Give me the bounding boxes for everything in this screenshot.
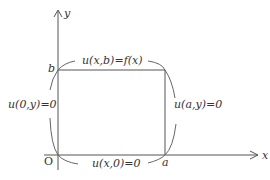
top-left-arc xyxy=(58,61,75,70)
top-boundary-condition: u(x,b)=f(x) xyxy=(82,54,142,67)
left-bottom-arc xyxy=(50,118,78,164)
boundary-value-diagram: y x O b a u(x,b)=f(x) u(0,y)=0 u(a,y)=0 … xyxy=(0,0,270,180)
x-axis-label: x xyxy=(262,149,269,162)
bottom-boundary-condition: u(x,0)=0 xyxy=(92,157,141,170)
origin-label: O xyxy=(44,155,53,168)
y-axis-label: y xyxy=(63,7,71,20)
b-label: b xyxy=(48,62,55,75)
top-right-arc xyxy=(148,61,175,98)
a-label: a xyxy=(162,156,169,169)
left-boundary-condition: u(0,y)=0 xyxy=(8,98,57,111)
right-boundary-condition: u(a,y)=0 xyxy=(174,98,222,111)
diagram-svg: y x O b a u(x,b)=f(x) u(0,y)=0 u(a,y)=0 … xyxy=(0,0,270,180)
